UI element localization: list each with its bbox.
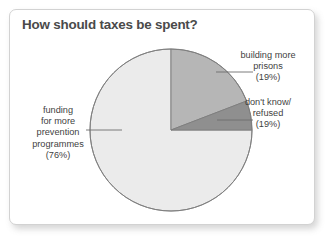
- pie-label-building-more-prisons-percent: (19%): [229, 72, 307, 83]
- pie-label-dont-know-refused: don't know/ refused (19%): [229, 97, 307, 131]
- pie-label-funding-line-2: for more: [41, 116, 75, 126]
- pie-label-building-more-prisons: building more prisons (19%): [229, 50, 307, 84]
- pie-label-funding-for-more-prevention-programmes: funding for more prevention programmes (…: [16, 105, 100, 161]
- pie-label-funding-percent: (76%): [16, 150, 100, 161]
- pie-label-funding-line-3: prevention: [37, 127, 80, 137]
- screenshot-root: How should taxes be spent?: [0, 0, 332, 242]
- pie-label-funding-line-4: programmes: [32, 139, 84, 149]
- pie-label-funding-line-1: funding: [43, 105, 73, 115]
- pie-label-building-more-prisons-line-1: building more: [240, 50, 295, 60]
- pie-label-dont-know-refused-line-2: refused: [253, 108, 284, 118]
- chart-card: How should taxes be spent?: [9, 9, 315, 225]
- pie-label-dont-know-refused-line-1: don't know/: [245, 97, 291, 107]
- pie-label-building-more-prisons-line-2: prisons: [253, 61, 283, 71]
- pie-label-dont-know-refused-percent: (19%): [229, 119, 307, 130]
